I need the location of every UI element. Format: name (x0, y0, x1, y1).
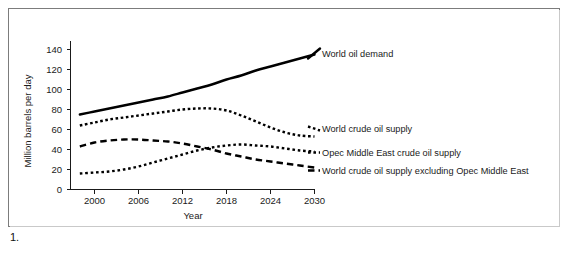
series-label-world-crude-oil-supply: World crude oil supply (322, 124, 413, 134)
y-tick-label: 140 (46, 44, 62, 55)
y-tick-label: 0 (57, 184, 62, 195)
figure-container: Million barrels per day 0 20 40 60 80 (0, 0, 572, 253)
x-tick-label: 2000 (84, 195, 105, 206)
x-axis-title: Year (183, 210, 202, 221)
series-label-group-world-crude-oil-supply: World crude oil supply (322, 124, 413, 134)
series-line-opec-middle-east-crude-oil-supply (80, 145, 315, 174)
x-tick-label: 2024 (260, 195, 281, 206)
x-axis-ticks (95, 190, 315, 195)
series-label-group-opec-middle-east: Opec Middle East crude oil supply (322, 148, 461, 158)
y-tick-label: 40 (51, 144, 62, 155)
x-tick-label: 2018 (216, 195, 237, 206)
series-line-world-crude-excluding-opec (80, 139, 315, 167)
y-tick-label: 120 (46, 64, 62, 75)
series-label-opec-middle-east-crude-oil-supply: Opec Middle East crude oil supply (322, 148, 461, 158)
legend-swatch-world-crude-oil-supply (308, 127, 320, 131)
x-axis-tick-labels: 2000 2006 2012 2018 2024 2030 (84, 195, 325, 206)
chart-frame: Million barrels per day 0 20 40 60 80 (8, 8, 560, 227)
figure-caption: 1. (10, 231, 19, 243)
series-label-world-oil-demand: World oil demand (322, 49, 393, 59)
line-chart: Million barrels per day 0 20 40 60 80 (9, 9, 561, 228)
series-label-world-crude-excluding-opec: World crude oil supply excluding Opec Mi… (322, 166, 529, 176)
legend-swatch-world-oil-demand (308, 49, 320, 59)
series-label-group-world-oil-demand: World oil demand (322, 49, 393, 59)
y-tick-label: 60 (51, 124, 62, 135)
y-tick-label: 20 (51, 164, 62, 175)
series-line-world-crude-oil-supply (80, 108, 315, 136)
x-tick-label: 2012 (172, 195, 193, 206)
x-tick-label: 2006 (128, 195, 149, 206)
series-label-group-world-excluding-opec: World crude oil supply excluding Opec Mi… (322, 166, 529, 176)
series-line-world-oil-demand (80, 55, 315, 115)
y-tick-label: 80 (51, 104, 62, 115)
x-tick-label: 2030 (304, 195, 325, 206)
y-axis-title: Million barrels per day (22, 74, 33, 167)
y-axis-tick-labels: 0 20 40 60 80 100 120 140 (46, 44, 62, 195)
y-tick-label: 100 (46, 84, 62, 95)
